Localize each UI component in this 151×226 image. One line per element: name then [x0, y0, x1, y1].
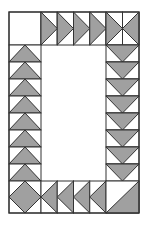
- quilt-diagram: [0, 0, 151, 226]
- top-left-square: [9, 12, 41, 45]
